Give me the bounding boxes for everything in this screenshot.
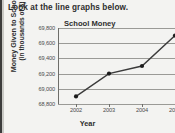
y-axis-title-line1: Money Given to Schools: [10, 0, 18, 72]
x-axis-tick-label: 2003: [103, 107, 115, 113]
x-axis-tick-label: 2002: [70, 107, 82, 113]
line-series: [58, 28, 175, 104]
scan-edge-shadow: [2, 0, 4, 133]
x-axis-title: Year: [0, 119, 175, 128]
data-point-marker: [74, 94, 78, 98]
y-axis-tick-label: 69,200: [38, 71, 55, 77]
y-axis-title-line2: (in thousands of $): [18, 2, 26, 61]
plot-area: [58, 28, 175, 104]
chart-plot-wrapper: 69,80069,60069,40069,20069,00068,800: [29, 28, 175, 104]
y-axis-tick-label: 68,800: [38, 101, 55, 107]
data-point-marker: [140, 64, 144, 68]
x-axis-tick-label: 2005: [169, 107, 175, 113]
y-axis-tick-label: 69,000: [38, 86, 55, 92]
chart-title: School Money: [64, 19, 115, 28]
y-axis-tick-label: 69,800: [38, 25, 55, 31]
x-axis-tick-labels: 2002200320042005: [58, 104, 175, 114]
y-axis-tick-label: 69,400: [38, 55, 55, 61]
data-line: [76, 36, 175, 97]
worksheet-page: Look at the line graphs below. School Mo…: [0, 0, 175, 133]
data-point-marker: [107, 72, 111, 76]
y-axis-tick-label: 69,600: [38, 40, 55, 46]
x-axis-tick-label: 2004: [136, 107, 148, 113]
y-axis-title: Money Given to Schools (in thousands of …: [9, 0, 27, 77]
y-axis-tick-labels: 69,80069,60069,40069,20069,00068,800: [29, 28, 57, 104]
